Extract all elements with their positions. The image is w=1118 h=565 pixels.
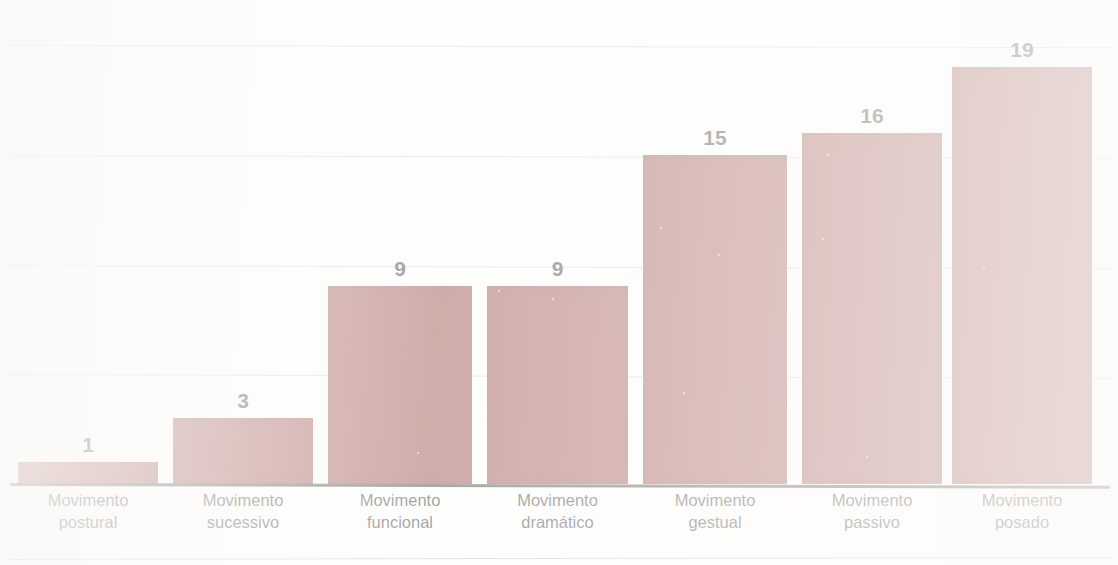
- category-label-line1: Movimento: [792, 490, 952, 512]
- category-label: Movimentodramático: [477, 490, 638, 534]
- category-label: Movimentosucessivo: [163, 490, 323, 534]
- category-label-line1: Movimento: [318, 490, 482, 512]
- category-label-line1: Movimento: [8, 490, 168, 512]
- category-label-line2: funcional: [318, 512, 482, 534]
- category-label-line1: Movimento: [942, 490, 1102, 512]
- category-label: Movimentopassivo: [792, 490, 952, 534]
- bar[interactable]: [18, 462, 158, 484]
- category-label-line1: Movimento: [477, 490, 638, 512]
- x-axis-line: [10, 483, 1110, 489]
- category-label-line2: postural: [8, 512, 168, 534]
- category-label: Movimentopostural: [8, 490, 168, 534]
- bar-value-label: 16: [802, 105, 942, 126]
- gridline: [8, 155, 1112, 159]
- scan-speck: [827, 154, 829, 156]
- category-label-line2: sucessivo: [163, 512, 323, 534]
- category-label-line2: posado: [942, 512, 1102, 534]
- bar-chart-figure: 1399151619 MovimentoposturalMovimentosuc…: [0, 0, 1118, 565]
- x-axis-category-labels: MovimentoposturalMovimentosucessivoMovim…: [0, 490, 1118, 550]
- bar-value-label: 1: [18, 434, 158, 455]
- bar-value-label: 9: [328, 258, 472, 279]
- scan-speck: [718, 254, 720, 256]
- bar[interactable]: [802, 133, 942, 484]
- bar[interactable]: [643, 155, 787, 484]
- scan-speck: [552, 298, 554, 300]
- bar[interactable]: [173, 418, 313, 484]
- scan-speck: [683, 392, 685, 394]
- bar-value-label: 9: [487, 258, 628, 279]
- bar-value-label: 19: [952, 39, 1092, 60]
- scan-speck: [417, 452, 419, 454]
- scan-speck: [822, 238, 824, 240]
- scan-speck: [498, 290, 500, 292]
- category-label-line2: dramático: [477, 512, 638, 534]
- gridline: [8, 45, 1112, 48]
- category-label-line2: gestual: [633, 512, 797, 534]
- scan-speck: [660, 227, 662, 229]
- category-label-line1: Movimento: [163, 490, 323, 512]
- bar-value-label: 3: [173, 390, 313, 411]
- scan-speck: [866, 456, 868, 458]
- bar[interactable]: [487, 286, 628, 484]
- category-label: Movimentofuncional: [318, 490, 482, 534]
- category-label: Movimentogestual: [633, 490, 797, 534]
- scan-speck: [983, 267, 985, 269]
- category-label: Movimentoposado: [942, 490, 1102, 534]
- footer-rule: [6, 557, 1112, 560]
- bar[interactable]: [952, 67, 1092, 484]
- plot-area: 1399151619: [0, 0, 1118, 490]
- bar[interactable]: [328, 286, 472, 484]
- bar-value-label: 15: [643, 127, 787, 148]
- category-label-line1: Movimento: [633, 490, 797, 512]
- category-label-line2: passivo: [792, 512, 952, 534]
